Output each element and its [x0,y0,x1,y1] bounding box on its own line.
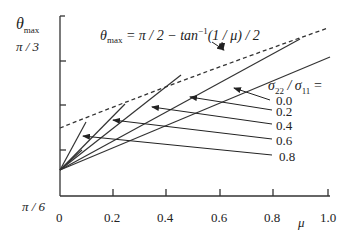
legend-label-0.2: 0.2 [276,105,292,118]
legend-label-0.8: 0.8 [279,150,295,163]
x-tick-0.2: 0.2 [104,211,120,224]
x-tick-0: 0 [56,211,63,224]
y-tick-pi-6: π / 6 [22,200,45,213]
legend-arrows [83,88,272,155]
legend-label-0.6: 0.6 [276,134,292,147]
x-tick-0.8: 0.8 [264,211,280,224]
x-axis-title: μ [298,216,305,229]
formula-annotation: θmax = π / 2 − tan−1(1 / μ) / 2 [100,27,260,45]
y-axis-title: θmax [16,16,39,35]
x-tick-0.6: 0.6 [211,211,227,224]
legend-label-0.4: 0.4 [276,119,292,132]
y-tick-pi-3: π / 3 [16,40,39,53]
x-tick-0.4: 0.4 [157,211,173,224]
x-tick-1.0: 1.0 [320,211,336,224]
